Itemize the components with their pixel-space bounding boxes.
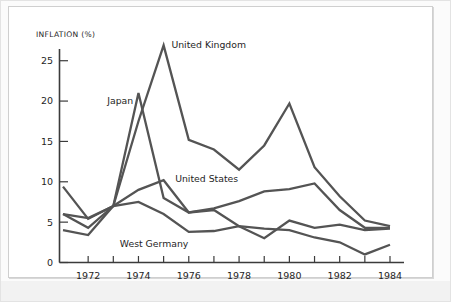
chart-page: 0510152025 1972197419761978198019821984 … — [0, 0, 451, 302]
line-chart: 0510152025 1972197419761978198019821984 … — [0, 0, 451, 302]
series-line — [63, 93, 390, 238]
series-label: West Germany — [120, 238, 189, 249]
y-axis-ticks — [60, 61, 69, 263]
y-tick-label: 15 — [41, 136, 53, 147]
chart-axes — [60, 49, 405, 263]
x-axis-ticks — [88, 256, 390, 263]
series-line — [63, 180, 390, 228]
y-tick-label: 5 — [47, 217, 53, 228]
y-tick-label: 20 — [41, 95, 53, 106]
chart-series-lines — [63, 45, 390, 254]
x-tick-label: 1978 — [227, 270, 251, 281]
x-tick-label: 1984 — [378, 270, 402, 281]
y-tick-label: 10 — [41, 176, 53, 187]
x-tick-label: 1980 — [277, 270, 301, 281]
series-label: Japan — [106, 95, 133, 106]
y-axis-title: INFLATION (%) — [36, 30, 95, 39]
x-axis-tick-labels: 1972197419761978198019821984 — [76, 270, 402, 281]
x-tick-label: 1974 — [126, 270, 150, 281]
series-label: United Kingdom — [171, 39, 246, 50]
x-tick-label: 1982 — [328, 270, 352, 281]
series-label: United States — [175, 173, 238, 184]
x-tick-label: 1972 — [76, 270, 100, 281]
x-tick-label: 1976 — [177, 270, 201, 281]
y-tick-label: 25 — [41, 55, 53, 66]
y-axis-tick-labels: 0510152025 — [41, 55, 53, 268]
y-tick-label: 0 — [47, 257, 53, 268]
